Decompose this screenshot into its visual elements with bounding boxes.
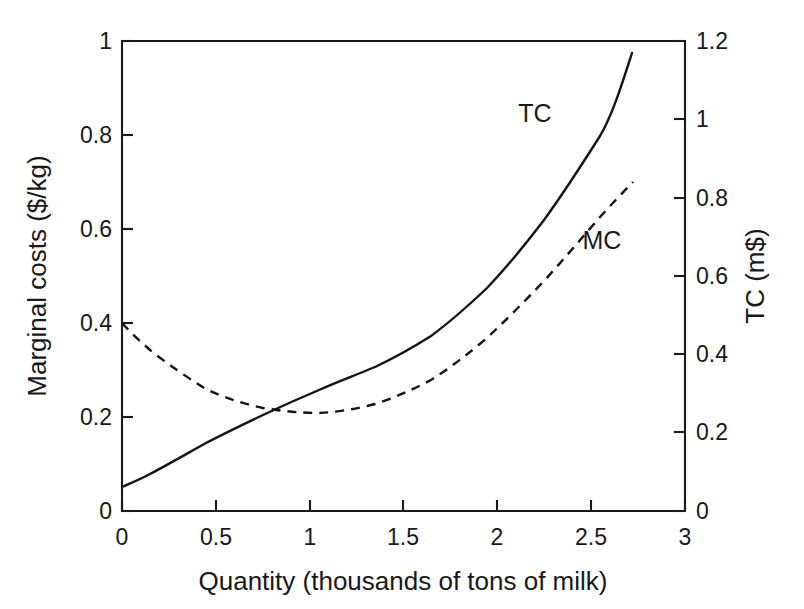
left-tick-label-4: 0.8 <box>80 122 112 148</box>
y2-axis-title: TC (m$) <box>740 228 770 323</box>
chart-page: 0 0.2 0.4 0.6 0.8 1 0 0.2 0.4 0.6 0.8 1 … <box>0 0 804 609</box>
bottom-tick-label-3: 1.5 <box>387 524 419 550</box>
figure-background <box>0 0 804 609</box>
right-tick-label-6: 1.2 <box>696 28 728 54</box>
series-label-mc: MC <box>583 226 622 254</box>
bottom-axis-tick-labels: 0 0.5 1 1.5 2 2.5 3 <box>116 524 692 550</box>
left-tick-label-0: 0 <box>99 498 112 524</box>
bottom-tick-label-1: 0.5 <box>200 524 232 550</box>
cost-curves-figure: 0 0.2 0.4 0.6 0.8 1 0 0.2 0.4 0.6 0.8 1 … <box>0 0 804 609</box>
left-tick-label-3: 0.6 <box>80 216 112 242</box>
x-axis-title: Quantity (thousands of tons of milk) <box>199 566 608 596</box>
series-label-tc: TC <box>518 99 551 127</box>
right-tick-label-2: 0.4 <box>696 341 728 367</box>
left-tick-label-2: 0.4 <box>80 310 112 336</box>
bottom-tick-label-5: 2.5 <box>575 524 607 550</box>
bottom-tick-label-4: 2 <box>491 524 504 550</box>
bottom-tick-label-6: 3 <box>679 524 692 550</box>
right-tick-label-3: 0.6 <box>696 263 728 289</box>
left-tick-label-5: 1 <box>99 28 112 54</box>
left-tick-label-1: 0.2 <box>80 404 112 430</box>
right-tick-label-0: 0 <box>696 498 709 524</box>
bottom-tick-label-0: 0 <box>116 524 129 550</box>
right-tick-label-4: 0.8 <box>696 185 728 211</box>
bottom-tick-label-2: 1 <box>304 524 317 550</box>
right-tick-label-1: 0.2 <box>696 419 728 445</box>
right-tick-label-5: 1 <box>696 106 709 132</box>
y-axis-title: Marginal costs ($/kg) <box>22 155 52 396</box>
